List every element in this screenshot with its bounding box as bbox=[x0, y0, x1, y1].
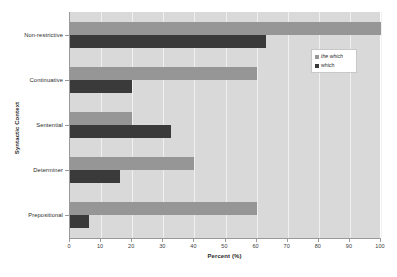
bar bbox=[70, 67, 257, 80]
x-tick-label: 70 bbox=[284, 243, 290, 249]
x-tick-mark bbox=[287, 238, 288, 242]
bar bbox=[70, 22, 381, 35]
bar bbox=[70, 202, 257, 215]
bar bbox=[70, 80, 132, 93]
y-tick-label: Determiner bbox=[33, 167, 63, 173]
y-tick-mark bbox=[65, 35, 69, 36]
x-tick-label: 0 bbox=[67, 243, 70, 249]
y-tick-label: Prepositional bbox=[28, 212, 63, 218]
x-tick-mark bbox=[193, 238, 194, 242]
y-tick-mark bbox=[65, 215, 69, 216]
bar bbox=[70, 125, 171, 138]
bar bbox=[70, 215, 89, 228]
legend-label-the-which: the which bbox=[321, 53, 343, 60]
x-tick-mark bbox=[380, 238, 381, 242]
y-tick-mark bbox=[65, 80, 69, 81]
x-tick-label: 50 bbox=[221, 243, 227, 249]
x-tick-label: 90 bbox=[346, 243, 352, 249]
legend-label-which: which bbox=[321, 62, 334, 69]
y-axis-line bbox=[69, 12, 70, 239]
bar-chart-figure: 0102030405060708090100 Non-restrictiveCo… bbox=[0, 0, 397, 277]
chart-legend: the which which bbox=[311, 49, 357, 73]
legend-swatch-the-which bbox=[315, 55, 319, 59]
y-axis-title: Syntactic Context bbox=[14, 83, 20, 173]
y-tick-label: Non-restrictive bbox=[24, 32, 63, 38]
x-tick-mark bbox=[162, 238, 163, 242]
bar bbox=[70, 157, 194, 170]
y-tick-mark bbox=[65, 125, 69, 126]
x-tick-label: 30 bbox=[159, 243, 165, 249]
x-tick-mark bbox=[318, 238, 319, 242]
x-tick-label: 20 bbox=[128, 243, 134, 249]
legend-item-the-which: the which bbox=[315, 53, 353, 60]
x-tick-mark bbox=[69, 238, 70, 242]
x-axis-title: Percent (%) bbox=[69, 253, 380, 259]
x-tick-label: 60 bbox=[252, 243, 258, 249]
x-tick-label: 100 bbox=[375, 243, 384, 249]
plot-area bbox=[69, 12, 380, 238]
bar bbox=[70, 170, 120, 183]
x-tick-mark bbox=[100, 238, 101, 242]
legend-item-which: which bbox=[315, 62, 353, 69]
x-tick-label: 40 bbox=[190, 243, 196, 249]
x-tick-mark bbox=[131, 238, 132, 242]
y-tick-label: Sentential bbox=[36, 122, 63, 128]
bar bbox=[70, 35, 266, 48]
x-tick-label: 80 bbox=[315, 243, 321, 249]
x-tick-mark bbox=[256, 238, 257, 242]
y-tick-mark bbox=[65, 170, 69, 171]
bars-layer bbox=[70, 12, 380, 238]
y-tick-label: Continuative bbox=[30, 77, 63, 83]
x-tick-mark bbox=[225, 238, 226, 242]
legend-swatch-which bbox=[315, 64, 319, 68]
x-tick-mark bbox=[349, 238, 350, 242]
bar bbox=[70, 112, 132, 125]
x-tick-label: 10 bbox=[97, 243, 103, 249]
gridline bbox=[381, 12, 382, 238]
